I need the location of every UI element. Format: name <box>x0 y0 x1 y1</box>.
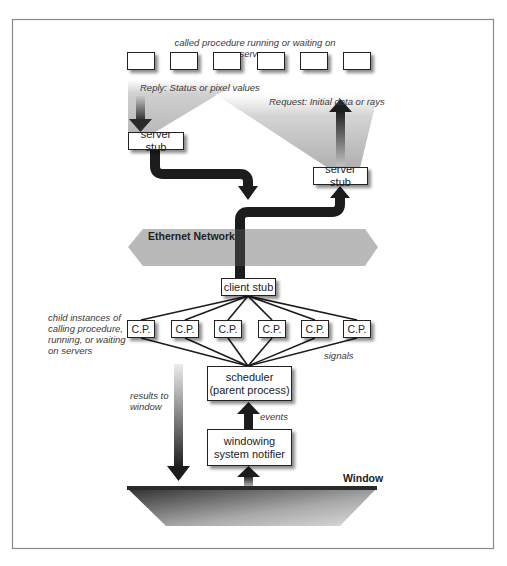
events-arrow-shaft <box>244 412 253 429</box>
network-crossing <box>235 229 245 266</box>
results-label-line: window <box>130 401 169 412</box>
cp-box: C.P. <box>127 320 155 338</box>
child-caption-line: calling procedure, <box>48 323 126 334</box>
results-label: results to window <box>130 390 169 412</box>
server-box <box>127 52 155 70</box>
scheduler-box: scheduler (parent process) <box>207 366 292 401</box>
signals-label: signals <box>324 350 354 361</box>
scheduler-subtitle: (parent process) <box>209 384 289 397</box>
scheduler-title: scheduler <box>226 371 274 384</box>
cp-box: C.P. <box>214 320 242 338</box>
client-stub: client stub <box>221 278 276 296</box>
window-arrow-shaft <box>244 476 253 487</box>
results-label-line: results to <box>130 390 169 401</box>
notifier-box: windowing system notifier <box>207 429 292 466</box>
server-to-network-arrowhead <box>238 186 258 200</box>
server-box <box>343 52 371 70</box>
cp-box: C.P. <box>171 320 199 338</box>
request-label: Request: Initial data or rays <box>269 96 385 107</box>
results-arrow-shaft <box>174 364 183 468</box>
server-box <box>213 52 241 70</box>
cp-box: C.P. <box>258 320 286 338</box>
events-arrow-head <box>237 402 260 414</box>
rpc-architecture-diagram: called procedure running or waiting on s… <box>0 0 507 566</box>
reply-arrow-shaft <box>136 96 145 121</box>
child-caption-line: on servers <box>48 345 126 356</box>
results-arrow-head <box>167 466 190 481</box>
server-stub-right: server stub <box>313 167 368 185</box>
notifier-subtitle: system notifier <box>214 448 285 461</box>
window-arrow-head <box>237 466 260 477</box>
server-to-network-path <box>155 150 248 188</box>
events-label: events <box>260 411 288 422</box>
ethernet-network-label: Ethernet Network <box>148 230 235 242</box>
window-top-edge <box>127 486 377 490</box>
notifier-title: windowing <box>224 435 275 448</box>
client-fanout-lines <box>141 296 357 320</box>
server-box <box>257 52 285 70</box>
reply-label: Reply: Status or pixel values <box>140 82 260 93</box>
child-caption: child instances of calling procedure, ru… <box>48 312 126 356</box>
request-arrow-shaft <box>336 110 345 166</box>
server-box <box>170 52 198 70</box>
child-caption-line: child instances of <box>48 312 126 323</box>
cp-box: C.P. <box>301 320 329 338</box>
cp-box: C.P. <box>343 320 371 338</box>
window-label: Window <box>343 472 383 484</box>
server-box <box>300 52 328 70</box>
child-caption-line: running, or waiting <box>48 334 126 345</box>
server-stub-left: server stub <box>128 132 184 150</box>
window-surface <box>127 488 377 526</box>
